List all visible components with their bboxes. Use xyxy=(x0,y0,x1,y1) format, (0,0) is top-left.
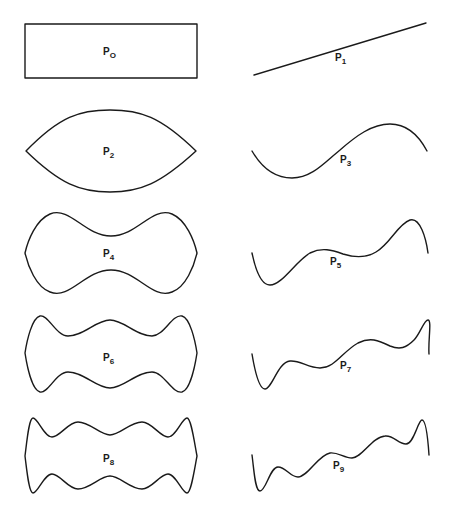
label-p1: P1 xyxy=(335,53,346,66)
label-p7: P7 xyxy=(340,361,351,374)
label-p6: P6 xyxy=(103,353,114,366)
label-p3: P3 xyxy=(340,155,351,168)
p1-line xyxy=(254,23,426,75)
label-p5: P5 xyxy=(330,257,341,270)
p3-curve xyxy=(252,124,427,178)
p5-curve xyxy=(252,220,428,285)
label-p2: P2 xyxy=(103,147,114,160)
label-p8: P8 xyxy=(103,454,114,467)
p7-curve xyxy=(252,320,430,389)
label-p0: PO xyxy=(103,47,116,60)
label-p4: P4 xyxy=(103,249,114,262)
p9-curve xyxy=(252,420,429,491)
figure-canvas xyxy=(0,0,454,517)
label-p9: P9 xyxy=(333,461,344,474)
